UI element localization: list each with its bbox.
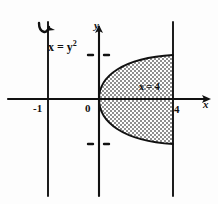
vertical-line-label: x = 4 xyxy=(139,82,160,92)
math-figure: x = y2 x = 4 -1 0 4 x y xyxy=(0,0,218,204)
curve-equation-exponent: 2 xyxy=(73,39,77,48)
x-tick-label-neg1: -1 xyxy=(33,103,42,114)
origin-label: 0 xyxy=(85,103,91,114)
rotation-axis-hook-arrowhead-icon xyxy=(45,27,55,31)
y-axis-label: y xyxy=(94,20,99,31)
curve-equation-base: x = y xyxy=(48,40,73,54)
x-tick-label-four: 4 xyxy=(174,104,180,115)
curve-equation-label: x = y2 xyxy=(48,40,77,53)
x-axis-label: x xyxy=(203,99,209,110)
